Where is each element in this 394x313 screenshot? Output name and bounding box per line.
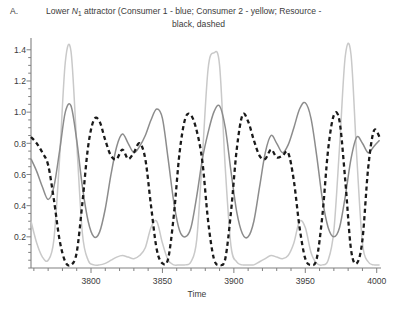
x-tick-label: 4000 (367, 276, 386, 286)
x-tick-label: 3800 (81, 276, 100, 286)
figure-panel-a: A. Lower N1 attractor (Consumer 1 - blue… (0, 0, 394, 313)
y-tick-label: 1.0 (14, 107, 26, 117)
y-tick-label: 0.4 (14, 201, 26, 211)
x-tick-label: 3850 (153, 276, 172, 286)
y-tick-label: 1.4 (14, 45, 26, 55)
y-tick-label: 0.2 (14, 232, 26, 242)
x-tick-label: 3900 (224, 276, 243, 286)
y-tick-label: 0.6 (14, 170, 26, 180)
x-axis-label: Time (0, 289, 394, 299)
y-tick-label: 0.8 (14, 139, 26, 149)
x-tick-label: 3950 (296, 276, 315, 286)
plot-area: 1.41.21.00.80.60.40.23800385039003950400… (0, 0, 394, 313)
y-tick-label: 1.2 (14, 76, 26, 86)
